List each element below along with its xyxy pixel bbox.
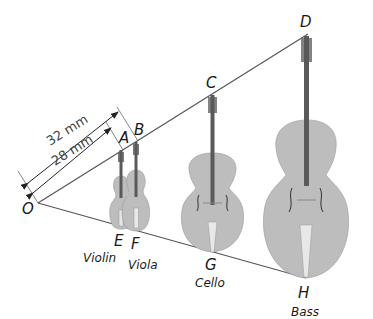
diagram-canvas: 32 mm 28 mm O A B C D E F G bbox=[0, 0, 373, 319]
cello-icon bbox=[181, 95, 243, 252]
bass-icon bbox=[263, 36, 348, 278]
point-label-o: O bbox=[22, 200, 34, 218]
point-label-g: G bbox=[205, 256, 217, 274]
instrument-name-violin: Violin bbox=[83, 251, 116, 265]
instrument-name-bass: Bass bbox=[291, 305, 319, 319]
point-label-a: A bbox=[118, 129, 129, 147]
point-label-c: C bbox=[206, 74, 217, 92]
point-label-b: B bbox=[134, 121, 144, 139]
instrument-name-viola: Viola bbox=[128, 258, 158, 272]
instrument-name-cello: Cello bbox=[195, 276, 225, 290]
point-label-e: E bbox=[114, 232, 124, 250]
point-label-d: D bbox=[300, 13, 312, 31]
point-label-f: F bbox=[131, 235, 140, 253]
point-label-h: H bbox=[298, 284, 309, 302]
similar-figures-diagram: 32 mm 28 mm O A B C D E F G bbox=[0, 0, 373, 319]
extension-line-o bbox=[18, 171, 38, 203]
